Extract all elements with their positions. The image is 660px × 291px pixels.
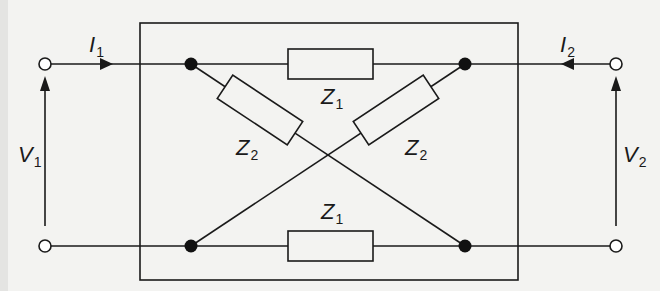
node-bottom-right <box>459 240 472 253</box>
label-v1: V1 <box>18 144 41 166</box>
label-subscript: 1 <box>335 96 343 112</box>
z2-left-impedance <box>217 75 302 145</box>
z1-top-impedance <box>288 49 373 79</box>
terminal-port2-top <box>610 58 622 70</box>
label-symbol: Z <box>236 135 249 160</box>
v2-arrowhead-icon <box>611 76 621 91</box>
label-subscript: 1 <box>335 211 343 227</box>
label-subscript: 2 <box>419 147 427 163</box>
terminal-port1-bottom <box>39 240 51 252</box>
label-i2: I2 <box>560 34 575 56</box>
label-symbol: I <box>560 32 566 57</box>
terminal-port2-bottom <box>610 240 622 252</box>
label-subscript: 1 <box>96 44 104 60</box>
label-symbol: Z <box>405 135 418 160</box>
label-subscript: 1 <box>34 154 42 170</box>
label-subscript: 2 <box>639 154 647 170</box>
label-subscript: 2 <box>567 44 575 60</box>
node-top-right <box>459 58 472 71</box>
z1-bottom-impedance <box>288 231 373 261</box>
lattice-network-diagram: I1 I2 V1 V2 Z1 Z1 Z2 Z2 <box>0 0 660 291</box>
label-z2-right: Z2 <box>405 137 427 159</box>
label-subscript: 2 <box>250 147 258 163</box>
label-z1-top: Z1 <box>321 86 343 108</box>
v1-arrowhead-icon <box>40 76 50 91</box>
label-symbol: Z <box>321 199 334 224</box>
node-bottom-left <box>185 240 198 253</box>
z2-right-impedance <box>353 75 438 145</box>
label-z1-bottom: Z1 <box>321 201 343 223</box>
label-symbol: V <box>18 142 33 167</box>
label-v2: V2 <box>623 144 646 166</box>
label-symbol: Z <box>321 84 334 109</box>
label-symbol: I <box>89 32 95 57</box>
node-top-left <box>185 58 198 71</box>
label-i1: I1 <box>89 34 104 56</box>
label-symbol: V <box>623 142 638 167</box>
terminal-port1-top <box>39 58 51 70</box>
label-z2-left: Z2 <box>236 137 258 159</box>
